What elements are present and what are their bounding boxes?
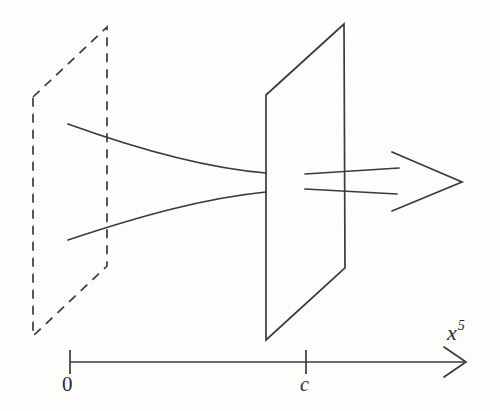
upper-throat-curve — [68, 124, 266, 173]
figure-canvas: 0 c x5 — [0, 0, 500, 411]
dashed-plane — [33, 27, 107, 336]
lower-throat-curve — [68, 192, 266, 240]
tick-label-0: 0 — [62, 372, 73, 397]
tick-label-c: c — [300, 373, 309, 396]
axis-label-superscript: 5 — [458, 318, 465, 333]
flux-arrow-shaft-bottom — [305, 189, 397, 194]
diagram-svg — [0, 0, 500, 411]
axis-label-x5: x5 — [447, 320, 464, 346]
solid-plane — [266, 24, 345, 340]
flux-arrow-head — [392, 152, 462, 211]
flux-arrow-shaft-top — [305, 168, 399, 174]
axis-label-base: x — [447, 320, 457, 345]
